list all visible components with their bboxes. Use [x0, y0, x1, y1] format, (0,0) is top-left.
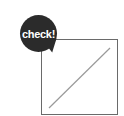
check-speech-bubble: check! — [20, 15, 57, 52]
check-label: check! — [22, 28, 55, 40]
